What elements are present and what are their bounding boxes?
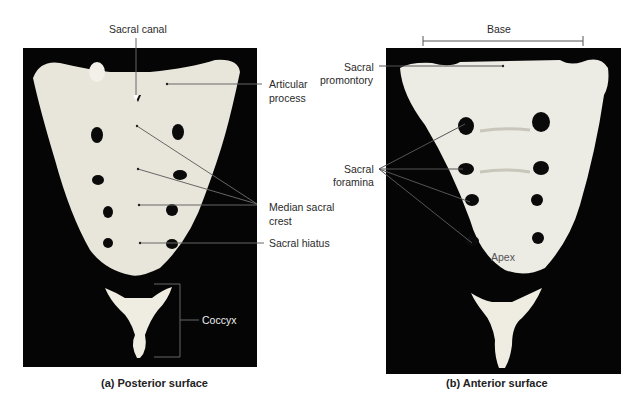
label-median-sacral-crest-line2: crest xyxy=(269,215,292,227)
label-sacral-promontory-line2: promontory xyxy=(320,74,373,86)
label-apex: Apex xyxy=(491,251,515,263)
caption-anterior-surface: (b) Anterior surface xyxy=(446,377,548,389)
anterior-coccyx-bone xyxy=(471,288,542,368)
label-median-sacral-crest-line1: Median sacral xyxy=(269,201,334,213)
label-sacral-canal: Sacral canal xyxy=(109,23,167,35)
label-sacral-foramina-line2: foramina xyxy=(333,176,374,188)
label-sacral-hiatus: Sacral hiatus xyxy=(269,237,330,249)
label-articular-process-line1: Articular xyxy=(269,78,308,90)
label-articular-process-line2: process xyxy=(269,92,306,104)
caption-posterior-surface: (a) Posterior surface xyxy=(101,377,208,389)
label-base: Base xyxy=(487,23,511,35)
label-sacral-promontory-line1: Sacral xyxy=(344,61,374,73)
label-sacral-foramina-line1: Sacral xyxy=(344,163,374,175)
anterior-sacrum-bone xyxy=(400,60,609,274)
label-coccyx: Coccyx xyxy=(202,314,236,326)
posterior-coccyx-bone xyxy=(105,287,172,358)
